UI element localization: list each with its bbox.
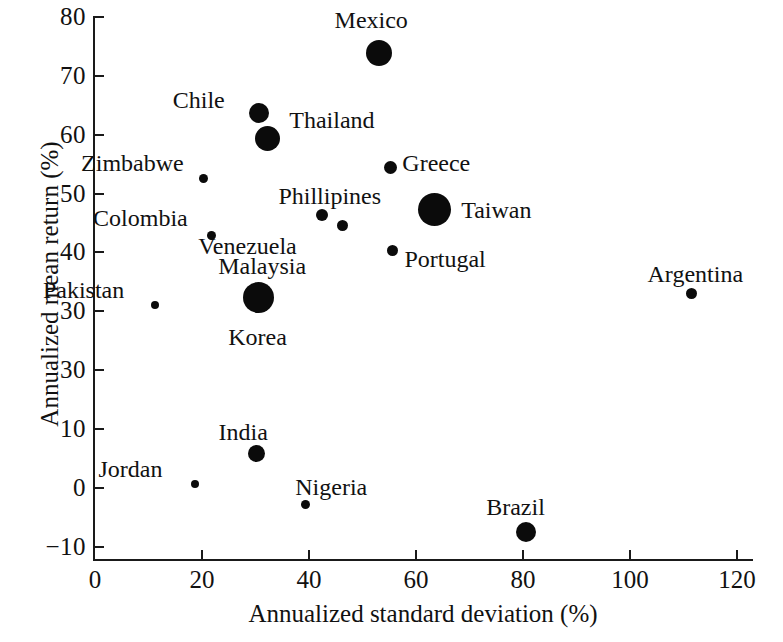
- data-label-jordan: Jordan: [99, 456, 163, 482]
- x-tick-label-120: 120: [697, 566, 777, 594]
- x-tick-120: [736, 550, 738, 559]
- x-axis-title: Annualized standard deviation (%): [93, 600, 753, 628]
- x-tick-label-80: 80: [483, 566, 563, 594]
- x-tick-100: [629, 550, 631, 559]
- x-tick-label-60: 60: [376, 566, 456, 594]
- y-tick-10: [95, 428, 104, 430]
- data-point-india[interactable]: [248, 445, 265, 462]
- data-label-chile: Chile: [173, 87, 225, 113]
- data-label-portugal: Portugal: [404, 246, 485, 272]
- data-label-india: India: [219, 419, 268, 445]
- data-label-argentina: Argentina: [648, 261, 744, 287]
- y-tick-0: [95, 487, 104, 489]
- data-label-brazil: Brazil: [486, 494, 545, 520]
- y-axis-title: Annualized mean return (%): [36, 4, 64, 564]
- data-label-zimbabwe: Zimbabwe: [81, 150, 184, 176]
- data-label-phillipines: Phillipines: [278, 183, 381, 209]
- y-tick--10: [95, 546, 104, 548]
- data-point-zimbabwe[interactable]: [199, 174, 208, 183]
- y-tick-80: [95, 16, 104, 18]
- data-label-thailand: Thailand: [289, 107, 374, 133]
- x-tick-40: [308, 550, 310, 559]
- data-point-thailand[interactable]: [255, 126, 280, 151]
- data-label-nigeria: Nigeria: [295, 474, 367, 500]
- data-point-venezuela[interactable]: [337, 220, 348, 231]
- data-label-korea: Korea: [228, 324, 287, 350]
- data-point-malaysia[interactable]: [243, 282, 274, 313]
- data-point-nigeria[interactable]: [301, 500, 310, 509]
- data-label-malaysia: Malaysia: [218, 253, 306, 279]
- y-tick-40: [95, 251, 104, 253]
- data-point-taiwan[interactable]: [418, 193, 451, 226]
- x-tick-60: [415, 550, 417, 559]
- y-tick-60: [95, 134, 104, 136]
- data-point-brazil[interactable]: [516, 522, 536, 542]
- data-point-argentina[interactable]: [686, 288, 697, 299]
- data-point-chile[interactable]: [249, 103, 269, 123]
- data-point-phillipines[interactable]: [316, 209, 328, 221]
- x-tick-label-100: 100: [590, 566, 670, 594]
- scatter-chart-figure: −1001030304050607080 020406080100120 Mex…: [0, 0, 783, 642]
- y-tick-20: [95, 369, 104, 371]
- data-point-greece[interactable]: [384, 161, 397, 174]
- x-tick-label-40: 40: [269, 566, 349, 594]
- data-label-colombia: Colombia: [93, 205, 188, 231]
- data-point-pakistan[interactable]: [151, 301, 159, 309]
- x-axis-spine: [93, 559, 753, 561]
- x-tick-label-20: 20: [162, 566, 242, 594]
- x-tick-20: [201, 550, 203, 559]
- y-tick-70: [95, 75, 104, 77]
- y-tick-50: [95, 193, 104, 195]
- x-tick-label-0: 0: [55, 566, 135, 594]
- data-label-mexico: Mexico: [335, 7, 408, 33]
- data-point-mexico[interactable]: [366, 40, 392, 66]
- data-label-greece: Greece: [402, 150, 470, 176]
- x-tick-80: [522, 550, 524, 559]
- data-label-taiwan: Taiwan: [461, 197, 531, 223]
- data-point-jordan[interactable]: [191, 480, 199, 488]
- data-point-portugal[interactable]: [387, 245, 398, 256]
- y-tick-30: [95, 310, 104, 312]
- data-point-colombia[interactable]: [207, 231, 216, 240]
